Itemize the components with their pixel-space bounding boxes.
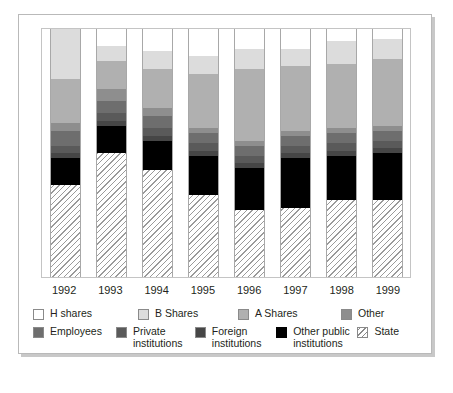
x-tick-1999: 1999	[365, 281, 411, 299]
bar-segment-b-shares	[373, 39, 402, 59]
swatch-state-icon	[357, 327, 368, 338]
x-tick-1996: 1996	[226, 281, 272, 299]
bar-segment-b-shares	[51, 29, 80, 79]
bar-column-1994	[134, 29, 180, 277]
legend-item-state[interactable]: State	[357, 325, 419, 349]
stacked-bar-1999	[372, 29, 403, 277]
x-tick-1995: 1995	[180, 281, 226, 299]
bar-segment-state	[281, 208, 310, 277]
bar-segment-state	[235, 210, 264, 277]
bar-segment-state	[373, 200, 402, 277]
bar-segment-other-public-institutions	[97, 126, 126, 153]
swatch-h-shares-icon	[33, 309, 44, 320]
bar-column-1996	[226, 29, 272, 277]
legend-item-h-shares[interactable]: H shares	[33, 307, 138, 320]
bar-segment-other-public-institutions	[281, 158, 310, 208]
bar-segment-employees	[189, 133, 218, 143]
x-axis-tick-labels: 19921993199419951996199719981999	[41, 281, 411, 299]
bar-segment-state	[97, 153, 126, 277]
bar-segment-state	[327, 200, 356, 277]
legend-row-2: EmployeesPrivate institutionsForeign ins…	[33, 325, 419, 349]
bar-column-1999	[364, 29, 410, 277]
bar-segment-h-shares	[327, 29, 356, 41]
bar-segment-employees	[327, 133, 356, 143]
bar-segment-b-shares	[281, 49, 310, 66]
legend-item-foreign-institutions[interactable]: Foreign institutions	[195, 325, 276, 349]
figure-caption	[18, 374, 438, 388]
bar-segment-a-shares	[97, 61, 126, 88]
swatch-foreign-institutions-icon	[195, 327, 206, 338]
legend-label: Private institutions	[133, 325, 183, 349]
bar-segment-private-institutions	[51, 146, 80, 153]
bar-column-1993	[88, 29, 134, 277]
bar-segment-h-shares	[97, 29, 126, 46]
stacked-bar-1993	[96, 29, 127, 277]
bar-segment-other	[143, 108, 172, 115]
bar-segment-other-public-institutions	[327, 156, 356, 201]
bar-segment-a-shares	[235, 69, 264, 141]
swatch-b-shares-icon	[138, 309, 149, 320]
chart-legend: H sharesB SharesA SharesOther EmployeesP…	[33, 307, 419, 354]
bar-segment-private-institutions	[97, 113, 126, 120]
stacked-bar-1996	[234, 29, 265, 277]
bar-segment-other	[97, 89, 126, 101]
legend-label: H shares	[50, 307, 92, 319]
legend-item-b-shares[interactable]: B Shares	[138, 307, 238, 320]
legend-item-a-shares[interactable]: A Shares	[238, 307, 341, 320]
bar-segment-a-shares	[51, 79, 80, 124]
bar-segment-a-shares	[143, 69, 172, 109]
swatch-other-icon	[341, 309, 352, 320]
bar-segment-private-institutions	[373, 141, 402, 148]
bar-segment-other-public-institutions	[51, 158, 80, 185]
legend-label: A Shares	[255, 307, 298, 319]
stacked-bar-1994	[142, 29, 173, 277]
bar-segment-other-public-institutions	[373, 153, 402, 200]
bar-segment-h-shares	[235, 29, 264, 49]
swatch-employees-icon	[33, 327, 44, 338]
legend-item-employees[interactable]: Employees	[33, 325, 116, 349]
swatch-other-public-institutions-icon	[276, 327, 287, 338]
bar-column-1998	[318, 29, 364, 277]
bar-segment-employees	[373, 131, 402, 141]
bar-segment-private-institutions	[143, 128, 172, 135]
bar-segment-a-shares	[373, 59, 402, 126]
bar-segment-b-shares	[143, 51, 172, 68]
legend-item-private-institutions[interactable]: Private institutions	[116, 325, 195, 349]
legend-item-other-public-institutions[interactable]: Other public institutions	[276, 325, 357, 349]
bar-segment-employees	[51, 131, 80, 146]
stacked-bar-1997	[280, 29, 311, 277]
legend-label: Foreign institutions	[212, 325, 262, 349]
bar-segment-b-shares	[97, 46, 126, 61]
bar-segment-other-public-institutions	[143, 141, 172, 171]
bar-segment-h-shares	[281, 29, 310, 49]
legend-label: Other	[358, 307, 384, 319]
bar-segment-private-institutions	[235, 156, 264, 163]
bar-segment-other	[51, 123, 80, 130]
legend-label: State	[374, 325, 399, 337]
bar-segment-a-shares	[327, 64, 356, 128]
x-tick-1998: 1998	[319, 281, 365, 299]
bar-segment-employees	[235, 146, 264, 156]
bar-segment-other-public-institutions	[235, 168, 264, 210]
bar-segment-private-institutions	[189, 143, 218, 150]
bar-segment-state	[51, 185, 80, 277]
swatch-a-shares-icon	[238, 309, 249, 320]
bar-segment-state	[143, 170, 172, 277]
bar-segment-b-shares	[327, 41, 356, 63]
bar-segment-b-shares	[235, 49, 264, 69]
legend-label: Employees	[50, 325, 102, 337]
bar-segment-employees	[97, 101, 126, 113]
x-tick-1992: 1992	[41, 281, 87, 299]
bar-segment-private-institutions	[327, 143, 356, 150]
bar-column-1995	[180, 29, 226, 277]
stacked-bar-group	[42, 29, 410, 277]
bar-segment-h-shares	[189, 29, 218, 56]
bar-segment-h-shares	[143, 29, 172, 51]
legend-row-1: H sharesB SharesA SharesOther	[33, 307, 419, 320]
x-tick-1994: 1994	[134, 281, 180, 299]
legend-item-other[interactable]: Other	[341, 307, 419, 320]
bar-segment-a-shares	[281, 66, 310, 130]
stacked-bar-1995	[188, 29, 219, 277]
bar-segment-b-shares	[189, 56, 218, 73]
figure-panel: 19921993199419951996199719981999 H share…	[18, 14, 432, 354]
